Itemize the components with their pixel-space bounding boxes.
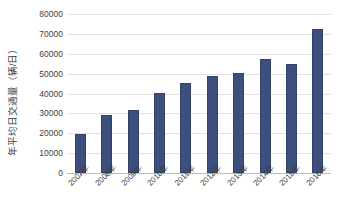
bar[interactable] [154, 93, 165, 173]
x-label-slot: 2007年 [67, 178, 93, 212]
bar-slot [67, 14, 93, 173]
y-tick-label: 20000 [39, 128, 63, 138]
x-label-slot: 2015年 [278, 178, 304, 212]
plot-area [67, 14, 331, 173]
bar-slot [173, 14, 199, 173]
y-tick-label: 0 [58, 168, 63, 178]
bar-slot [93, 14, 119, 173]
bar-series [67, 14, 331, 173]
bar[interactable] [260, 59, 271, 173]
y-tick-label: 30000 [39, 108, 63, 118]
bar-slot [278, 14, 304, 173]
y-tick-label: 50000 [39, 69, 63, 79]
x-label-slot: 2008年 [93, 178, 119, 212]
bar[interactable] [286, 64, 297, 174]
x-label-slot: 2016年 [305, 178, 331, 212]
bar[interactable] [180, 83, 191, 173]
y-tick-label: 70000 [39, 29, 63, 39]
bar[interactable] [233, 73, 244, 173]
y-tick-label: 10000 [39, 148, 63, 158]
x-label-slot: 2010年 [146, 178, 172, 212]
bar[interactable] [312, 29, 323, 173]
bar[interactable] [207, 76, 218, 173]
x-label-slot: 2014年 [252, 178, 278, 212]
bar-slot [252, 14, 278, 173]
bar-slot [305, 14, 331, 173]
y-tick-label: 40000 [39, 89, 63, 99]
bar-slot [199, 14, 225, 173]
bar-slot [120, 14, 146, 173]
x-axis-tick-labels: 2007年2008年2009年2010年2011年2012年2013年2014年… [67, 178, 331, 212]
x-label-slot: 2011年 [173, 178, 199, 212]
bar-chart: 年平均日交通量（辆/日） 800007000060000500004000030… [0, 0, 338, 212]
y-tick-label: 80000 [39, 9, 63, 19]
x-label-slot: 2012年 [199, 178, 225, 212]
bar-slot [146, 14, 172, 173]
x-label-slot: 2009年 [120, 178, 146, 212]
y-tick-label: 60000 [39, 49, 63, 59]
x-label-slot: 2013年 [225, 178, 251, 212]
bar-slot [225, 14, 251, 173]
y-axis-tick-labels: 8000070000600005000040000300002000010000… [0, 0, 67, 212]
